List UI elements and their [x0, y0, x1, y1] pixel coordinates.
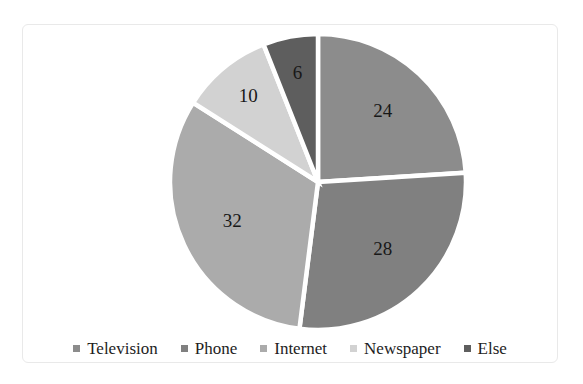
- legend-swatch-icon: [260, 345, 267, 352]
- chart-legend: TelevisionPhoneInternetNewspaperElse: [22, 334, 558, 362]
- pie-slices-group: [170, 34, 466, 330]
- pie-chart-figure: 242832106 TelevisionPhoneInternetNewspap…: [0, 0, 583, 384]
- legend-item-internet[interactable]: Internet: [260, 340, 327, 357]
- legend-item-else[interactable]: Else: [464, 340, 507, 357]
- legend-swatch-icon: [464, 345, 471, 352]
- legend-item-label: Television: [87, 340, 158, 357]
- pie-plot-area: 242832106: [0, 0, 583, 384]
- pie-data-label-else: 6: [293, 62, 303, 83]
- legend-item-newspaper[interactable]: Newspaper: [350, 340, 440, 357]
- pie-data-label-phone: 28: [373, 238, 392, 259]
- pie-svg: 242832106: [0, 0, 583, 384]
- legend-swatch-icon: [181, 345, 188, 352]
- legend-item-television[interactable]: Television: [73, 340, 158, 357]
- legend-item-phone[interactable]: Phone: [181, 340, 238, 357]
- pie-data-label-television: 24: [373, 100, 393, 121]
- pie-data-label-internet: 32: [223, 210, 242, 231]
- legend-swatch-icon: [350, 345, 357, 352]
- pie-data-label-newspaper: 10: [239, 85, 258, 106]
- legend-item-label: Phone: [195, 340, 238, 357]
- legend-item-label: Internet: [274, 340, 327, 357]
- legend-item-label: Else: [478, 340, 507, 357]
- legend-swatch-icon: [73, 345, 80, 352]
- legend-item-label: Newspaper: [364, 340, 440, 357]
